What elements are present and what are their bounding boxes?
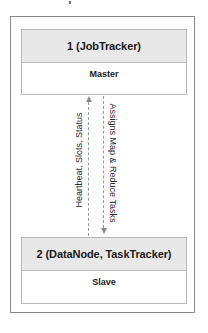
arrow-up-icon [86,96,92,102]
arrow-down-icon [101,228,107,234]
slave-node-box: 2 (DataNode, TaskTracker) Slave [21,237,187,304]
assign-tasks-edge-label: Assigns Map & Reduce Tasks [108,104,118,223]
slave-node-role: Slave [22,271,186,287]
master-node-header: 1 (JobTracker) [22,30,186,63]
heartbeat-arrow-line [88,102,89,236]
assign-tasks-arrow-line [103,96,104,228]
master-node-role: Master [22,63,186,79]
crop-artifact-mark [69,1,71,4]
master-node-box: 1 (JobTracker) Master [21,29,187,95]
slave-node-header: 2 (DataNode, TaskTracker) [22,238,186,271]
heartbeat-edge-label: Heartbeat, Slots, Status [74,112,84,207]
